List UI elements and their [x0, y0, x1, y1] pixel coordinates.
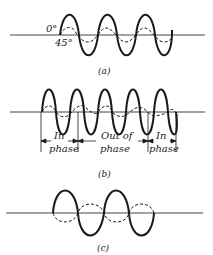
panel-b-caption: (b) [98, 169, 111, 179]
region-1-line2: phase [49, 143, 79, 154]
wave-phase-diagram: 0° 45° (a) In phase Out of phase In phas… [0, 0, 213, 255]
angle-0-label: 0° [46, 23, 57, 34]
panel-c: (c) [6, 191, 203, 254]
region-1-line1: In [53, 130, 64, 141]
region-2-line2: phase [100, 143, 130, 154]
region-3-line1: In [155, 130, 166, 141]
panel-a: 0° 45° (a) [10, 15, 205, 76]
region-2-line1: Out of [101, 130, 135, 141]
panel-b: In phase Out of phase In phase (b) [10, 90, 205, 180]
panel-a-caption: (a) [98, 66, 111, 76]
panel-c-caption: (c) [97, 243, 110, 253]
angle-45-label: 45° [54, 37, 73, 48]
region-3-line2: phase [149, 143, 179, 154]
panel-b-dashed-wave [42, 106, 178, 117]
